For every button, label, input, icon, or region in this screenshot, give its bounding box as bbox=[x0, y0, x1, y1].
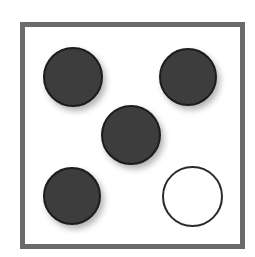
circle-top-left bbox=[43, 47, 103, 107]
figure-root bbox=[0, 0, 255, 257]
circle-bottom-right bbox=[162, 166, 223, 227]
circle-center bbox=[101, 105, 161, 165]
circle-bottom-left bbox=[43, 167, 101, 225]
circle-top-right bbox=[159, 48, 217, 106]
